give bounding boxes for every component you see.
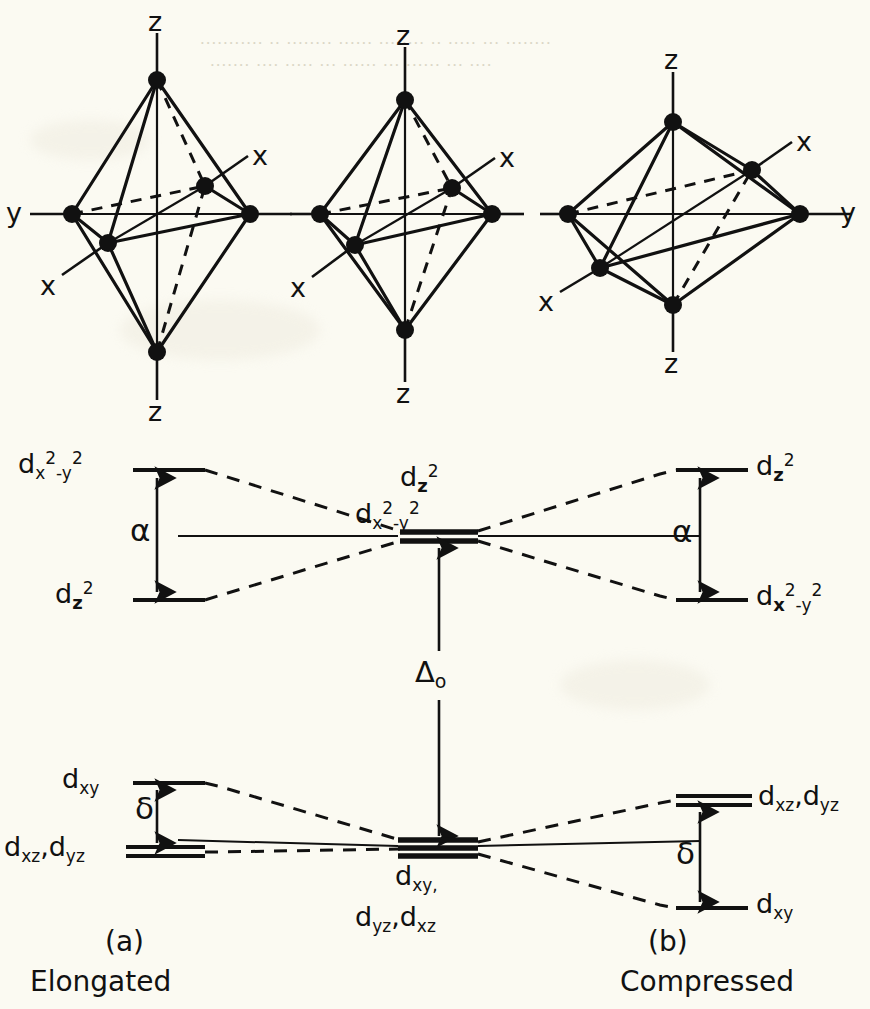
level-label-center-t2g-line2: dyz,dxz [355,903,436,935]
level-label-left-t2g-upper: dxy [62,765,99,797]
gap-label-delta-left: δ [135,793,154,824]
level-label-right-t2g-lower: dxy [756,890,793,922]
gap-label-alpha-left: α [130,515,150,546]
caption-letter-a: (a) [105,928,144,956]
gap-label-alpha-right: α [672,516,692,547]
level-label-center-eg-dx2y2: dx2-y2 [355,500,420,532]
caption-letter-b: (b) [648,928,688,956]
level-label-right-eg-upper: dz2 [756,452,794,484]
level-label-left-eg-upper: dx2-y2 [18,450,83,482]
level-label-center-t2g-line1: dxy, [395,862,438,894]
caption-compressed: Compressed [620,968,794,996]
level-label-center-eg-dz2: dz2 [400,463,438,495]
splitting-label-delta-o: Δo [415,658,446,691]
level-label-left-t2g-lower: dxz,dyz [4,833,85,865]
level-label-right-t2g-upper: dxz,dyz [758,782,839,814]
gap-label-delta-right: δ [676,838,695,869]
caption-elongated: Elongated [30,968,171,996]
level-label-right-eg-lower: dx2-y2 [756,582,822,614]
level-label-left-eg-lower: dz2 [55,580,93,612]
figure-canvas: ........... .. ........ ...... ... .... … [0,0,870,1009]
energy-level-diagram: .lv{stroke:#111;stroke-width:4.2;stroke-… [0,0,870,1009]
